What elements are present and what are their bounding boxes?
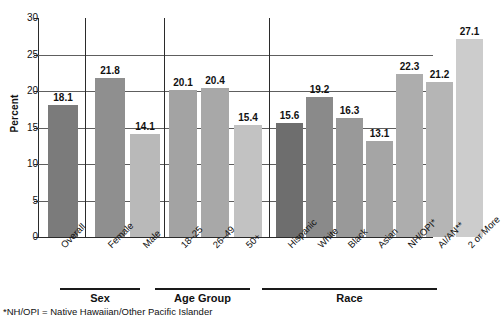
bar-value-label: 15.6 — [270, 110, 309, 121]
gridline — [38, 55, 433, 56]
y-tick-label: 10 — [12, 159, 38, 169]
group-label-sex: Sex — [60, 292, 140, 304]
y-tick-label: 15 — [12, 123, 38, 133]
bar — [234, 125, 262, 237]
bar — [130, 134, 160, 237]
group-rule — [262, 288, 437, 290]
y-tick-label: 30 — [12, 13, 38, 23]
bar-value-label: 21.8 — [89, 65, 131, 76]
bar — [336, 118, 363, 237]
y-tick-label: 0 — [12, 232, 38, 242]
bar — [396, 74, 423, 237]
group-label-age_group: Age Group — [155, 292, 250, 304]
bar-value-label: 21.2 — [420, 69, 459, 80]
bar-value-label: 14.1 — [124, 121, 166, 132]
bar-value-label: 20.4 — [195, 75, 235, 86]
bar — [201, 88, 229, 237]
group-separator — [269, 18, 270, 237]
bar-value-label: 13.1 — [360, 128, 399, 139]
bar-value-label: 27.1 — [450, 26, 489, 37]
bar-value-label: 15.4 — [228, 112, 268, 123]
group-separator — [85, 18, 86, 237]
y-tick-label: 5 — [12, 196, 38, 206]
bar — [276, 123, 303, 237]
plot-area: 18.121.814.120.120.415.415.619.216.313.1… — [38, 18, 433, 237]
bar — [456, 39, 483, 237]
y-tick-label: 20 — [12, 86, 38, 96]
bar — [366, 141, 393, 237]
group-rule — [60, 288, 140, 290]
bar-value-label: 19.2 — [300, 84, 339, 95]
gridline — [38, 237, 433, 238]
y-tick-label: 25 — [12, 50, 38, 60]
y-axis-ticks: 051015202530 — [0, 0, 38, 324]
bar — [169, 90, 197, 237]
bar-value-label: 18.1 — [42, 92, 84, 103]
bar-value-label: 16.3 — [330, 105, 369, 116]
bar — [426, 82, 453, 237]
group-label-race: Race — [262, 292, 437, 304]
bar — [48, 105, 78, 237]
group-rule — [155, 288, 250, 290]
footnote: *NH/OPI = Native Hawaiian/Other Pacific … — [3, 306, 212, 317]
bar — [95, 78, 125, 237]
